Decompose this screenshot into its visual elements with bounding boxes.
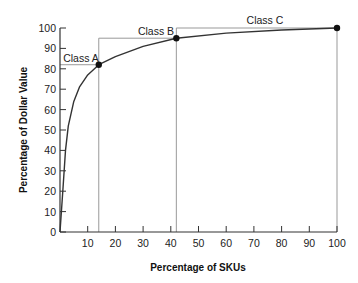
x-tick-label: 100 [328, 237, 346, 249]
y-tick-label: 20 [44, 185, 56, 197]
x-tick-label: 60 [220, 237, 232, 249]
y-tick-label: 70 [44, 83, 56, 95]
x-tick-label: 50 [193, 237, 205, 249]
class-b-label: Class B [138, 25, 174, 37]
y-tick-label: 40 [44, 144, 56, 156]
x-tick-label: 20 [110, 237, 122, 249]
x-tick-label: 40 [165, 237, 177, 249]
y-axis-title: Percentage of Dollar Value [18, 66, 29, 193]
class-point-marker [334, 25, 340, 31]
y-tick-label: 30 [44, 165, 56, 177]
y-tick-label: 50 [44, 124, 56, 136]
x-axis-title: Percentage of SKUs [150, 262, 246, 273]
cumulative-curve [60, 28, 337, 232]
y-tick-label: 80 [44, 63, 56, 75]
y-tick-label: 0 [50, 226, 56, 238]
x-tick-label: 80 [276, 237, 288, 249]
x-tick-label: 70 [248, 237, 260, 249]
cumulative-curve-path [60, 28, 337, 232]
class-a-label: Class A [63, 52, 99, 64]
class-points [96, 25, 341, 68]
y-tick-label: 100 [38, 22, 56, 34]
class-b-guide [99, 38, 177, 232]
x-tick-label: 10 [82, 237, 94, 249]
class-c-label: Class C [247, 14, 284, 26]
y-tick-label: 90 [44, 42, 56, 54]
x-tick-label: 90 [303, 237, 315, 249]
y-tick-label: 60 [44, 104, 56, 116]
x-tick-label: 30 [137, 237, 149, 249]
class-point-marker [173, 35, 179, 41]
class-c-guide [176, 28, 337, 232]
class-boundary-lines [60, 28, 337, 232]
pareto-abc-chart: 0102030405060708090100102030405060708090… [0, 0, 358, 283]
y-tick-label: 10 [44, 206, 56, 218]
